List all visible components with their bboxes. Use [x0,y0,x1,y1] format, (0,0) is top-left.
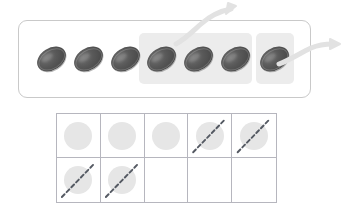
cross-out-icon [232,114,276,157]
ten-frame-cell-4[interactable] [188,114,232,158]
ten-frame-cell-8[interactable] [145,158,189,202]
ten-frame [56,113,277,203]
ten-frame-cell-10[interactable] [232,158,276,202]
ten-frame-cell-1[interactable] [57,114,101,158]
ten-frame-cell-3[interactable] [145,114,189,158]
ten-frame-dot [64,122,92,150]
ten-frame-dot [152,122,180,150]
cross-out-icon [188,114,231,157]
ten-frame-dot [108,122,136,150]
ten-frame-cell-7[interactable] [101,158,145,202]
cross-out-icon [57,158,100,202]
ten-frame-cell-5[interactable] [232,114,276,158]
diagram-stage [0,0,343,214]
ten-frame-cell-6[interactable] [57,158,101,202]
ten-frame-cell-9[interactable] [188,158,232,202]
remove-group-of-one-arrowhead-icon [330,39,340,49]
ten-frame-cell-2[interactable] [101,114,145,158]
cross-out-icon [101,158,144,202]
remove-group-of-three-arrowhead-icon [226,3,236,14]
